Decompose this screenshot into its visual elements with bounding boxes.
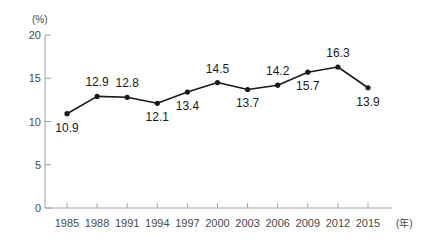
y-axis-ticks: 05101520	[29, 29, 51, 214]
data-point-label: 15.7	[296, 79, 320, 93]
x-tick-label: 2012	[326, 217, 350, 229]
data-point-label: 14.2	[266, 64, 290, 78]
data-point-marker	[155, 101, 160, 106]
x-tick-label: 2006	[265, 217, 289, 229]
data-point-label: 12.9	[85, 75, 109, 89]
series-data-labels: 10.912.912.812.113.414.513.714.215.716.3…	[55, 46, 380, 135]
x-tick-label: 2003	[235, 217, 259, 229]
y-axis: 05101520	[29, 29, 51, 214]
data-point-marker	[305, 70, 310, 75]
data-point-label: 12.1	[146, 110, 170, 124]
data-point-label: 10.9	[55, 121, 79, 135]
data-point-label: 13.4	[176, 99, 200, 113]
x-tick-label: 1985	[55, 217, 79, 229]
x-tick-label: 1991	[115, 217, 139, 229]
data-point-marker	[185, 89, 190, 94]
line-chart: (%) 05101520 198519881991199419972000200…	[0, 0, 423, 244]
y-tick-label: 10	[29, 116, 41, 128]
x-tick-label: 2000	[205, 217, 229, 229]
data-point-marker	[275, 83, 280, 88]
x-axis: 1985198819911994199720002003200620092012…	[45, 203, 413, 229]
x-axis-unit-text: (年)	[396, 217, 413, 229]
data-point-label: 12.8	[116, 76, 140, 90]
data-point-marker	[64, 111, 69, 116]
data-point-marker	[215, 80, 220, 85]
y-tick-label: 5	[35, 159, 41, 171]
y-tick-label: 15	[29, 72, 41, 84]
data-point-marker	[245, 87, 250, 92]
data-point-label: 16.3	[326, 46, 350, 60]
y-tick-label: 0	[35, 202, 41, 214]
data-series: 10.912.912.812.113.414.513.714.215.716.3…	[55, 46, 380, 135]
x-tick-label: 1997	[175, 217, 199, 229]
chart-canvas: (%) 05101520 198519881991199419972000200…	[0, 0, 423, 244]
x-tick-label: 2009	[296, 217, 320, 229]
x-axis-ticks: 1985198819911994199720002003200620092012…	[55, 203, 380, 229]
data-point-marker	[335, 64, 340, 69]
data-point-label: 13.7	[236, 96, 260, 110]
x-tick-label: 1994	[145, 217, 169, 229]
y-axis-unit-label: (%)	[32, 14, 48, 25]
data-point-marker	[95, 94, 100, 99]
data-point-marker	[125, 95, 130, 100]
x-tick-label: 2015	[356, 217, 380, 229]
data-point-label: 13.9	[356, 95, 380, 109]
data-point-marker	[365, 85, 370, 90]
y-axis-unit-text: (%)	[32, 14, 48, 25]
x-tick-label: 1988	[85, 217, 109, 229]
y-tick-label: 20	[29, 29, 41, 41]
data-point-label: 14.5	[206, 62, 230, 76]
